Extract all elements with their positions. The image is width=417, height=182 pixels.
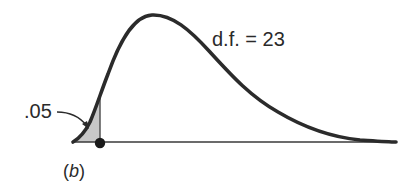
critical-value-dot bbox=[95, 138, 105, 148]
degrees-of-freedom-label: d.f. = 23 bbox=[212, 29, 285, 49]
panel-label: (b) bbox=[63, 162, 85, 180]
chi-square-diagram bbox=[0, 0, 417, 182]
panel-label-letter: b bbox=[69, 161, 79, 181]
panel-label-close: ) bbox=[79, 161, 85, 181]
tail-area-label: .05 bbox=[24, 101, 52, 121]
